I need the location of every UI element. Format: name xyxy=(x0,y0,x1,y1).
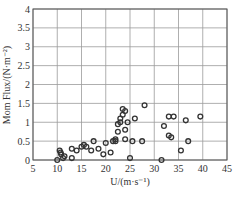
grid-lines xyxy=(33,9,227,160)
x-tick-label: 40 xyxy=(198,163,208,174)
x-tick-label: 35 xyxy=(174,163,184,174)
data-point xyxy=(179,148,184,153)
y-tick-label: 1 xyxy=(25,117,30,128)
data-point xyxy=(198,114,203,119)
x-tick-label: 10 xyxy=(52,163,62,174)
data-point xyxy=(115,129,120,134)
data-point xyxy=(96,146,101,151)
x-axis-ticks: 51015202530354045 xyxy=(31,163,233,174)
data-point xyxy=(166,114,171,119)
data-point xyxy=(108,150,113,155)
data-point xyxy=(123,127,128,132)
y-tick-label: 2.5 xyxy=(18,60,31,71)
x-tick-label: 25 xyxy=(125,163,135,174)
data-point xyxy=(132,116,137,121)
x-tick-label: 15 xyxy=(77,163,87,174)
y-axis-label: Mom Flux/(N·m⁻²) xyxy=(1,46,13,124)
y-tick-label: 0.5 xyxy=(18,136,31,147)
x-tick-label: 30 xyxy=(149,163,159,174)
x-tick-label: 5 xyxy=(31,163,36,174)
y-tick-label: 2 xyxy=(25,79,30,90)
data-point xyxy=(101,152,106,157)
data-point xyxy=(171,114,176,119)
y-tick-label: 3.5 xyxy=(18,22,31,33)
data-points xyxy=(55,103,203,163)
data-point xyxy=(89,148,94,153)
y-tick-label: 0 xyxy=(25,155,30,166)
y-axis-ticks: 00.511.522.533.54 xyxy=(18,4,31,166)
x-tick-label: 45 xyxy=(222,163,232,174)
x-axis-label: U/(m·s⁻¹) xyxy=(110,176,150,188)
x-tick-label: 20 xyxy=(101,163,111,174)
data-point xyxy=(74,148,79,153)
data-point xyxy=(162,124,167,129)
y-tick-label: 4 xyxy=(25,4,30,15)
y-tick-label: 3 xyxy=(25,41,30,52)
data-point xyxy=(69,146,74,151)
y-tick-label: 1.5 xyxy=(18,98,31,109)
scatter-chart: 51015202530354045 00.511.522.533.54 U/(m… xyxy=(0,0,234,198)
